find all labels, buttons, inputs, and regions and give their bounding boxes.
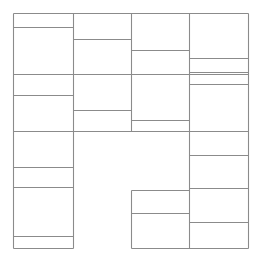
cell-c1-r3 <box>13 74 73 95</box>
partition-svg <box>0 0 262 259</box>
cell-c2-r4 <box>73 110 131 131</box>
cell-c4-r3 <box>189 72 248 84</box>
cell-c4-r2 <box>189 58 248 72</box>
cell-c2-r1 <box>73 13 131 39</box>
cell-c1-r5 <box>13 131 73 167</box>
cell-c4-r8 <box>189 222 248 248</box>
cell-c3-r1 <box>131 13 189 50</box>
rectangular-partition-figure <box>0 0 262 259</box>
cell-c1-r7 <box>13 187 73 236</box>
cell-c1-r4 <box>13 95 73 131</box>
cell-c3-r3 <box>131 74 189 120</box>
cell-c4-r5 <box>189 131 248 155</box>
cell-c4-r6 <box>189 155 248 188</box>
cell-c1-r2 <box>13 27 73 74</box>
cell-bottom-mid-upper <box>131 190 189 213</box>
cell-c3-r4 <box>131 120 189 131</box>
cell-c1-r8 <box>13 236 73 248</box>
cell-c2-r3 <box>73 74 131 110</box>
cell-c3-r2 <box>131 50 189 74</box>
cell-bottom-mid-lower <box>131 213 189 248</box>
diagram-canvas: Rectangular partition line drawing A set… <box>0 0 262 259</box>
cell-c1-r1 <box>13 13 73 27</box>
cell-c4-r7 <box>189 188 248 222</box>
cell-c4-r1 <box>189 13 248 58</box>
cell-c1-r6 <box>13 167 73 187</box>
cell-c2-r2 <box>73 39 131 74</box>
cell-c4-r4 <box>189 84 248 131</box>
